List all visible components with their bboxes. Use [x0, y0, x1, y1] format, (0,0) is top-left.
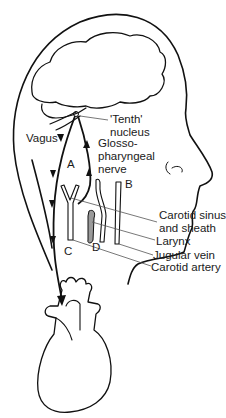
reflex-diagram: 'Tenth' nucleus Vagus Glosso- pharyngeal…	[0, 0, 226, 418]
carotid-artery-leader	[73, 240, 151, 266]
label-c: C	[64, 245, 72, 257]
aorta-arch	[56, 300, 80, 340]
carotid-artery	[61, 185, 79, 240]
label-a: A	[67, 158, 75, 170]
tenth-nucleus-leader	[80, 116, 108, 120]
label-carotid-sinus-2: and sheath	[159, 222, 216, 234]
brain	[32, 33, 166, 108]
vagus-arrow-2	[50, 170, 56, 178]
glosso-arrow-1	[83, 140, 90, 148]
nostril	[166, 162, 183, 174]
glosso-arrow-2	[86, 168, 92, 176]
label-carotid-artery: Carotid artery	[151, 261, 221, 273]
label-d: D	[92, 241, 100, 253]
jugular-leader	[119, 244, 153, 255]
jugular-vein	[115, 182, 121, 244]
label-glosso-3: nerve	[98, 163, 127, 175]
label-jugular-vein: Jugular vein	[153, 249, 215, 261]
glossopharyngeal-nerve	[78, 116, 90, 204]
carotid-sinus-leader	[71, 198, 157, 222]
brainstem	[50, 112, 80, 130]
label-carotid-sinus-1: Carotid sinus	[159, 209, 226, 221]
larynx	[88, 210, 95, 243]
label-glosso-2: pharyngeal	[98, 150, 155, 162]
label-larynx: Larynx	[156, 235, 191, 247]
vagus-arrow-1	[57, 134, 64, 142]
label-vagus: Vagus	[26, 132, 58, 144]
heart	[38, 278, 111, 413]
label-glosso-1: Glosso-	[98, 137, 138, 149]
label-tenth-1: 'Tenth'	[110, 113, 143, 125]
neck-back	[32, 160, 52, 248]
label-b: B	[125, 178, 133, 190]
larynx-leader	[92, 222, 155, 240]
larynx-tube	[96, 179, 106, 242]
